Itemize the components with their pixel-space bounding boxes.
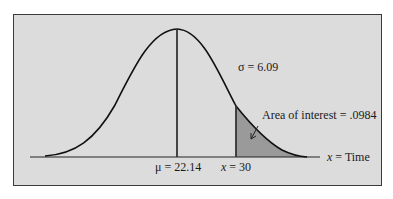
axis-label: x = Time [326, 150, 370, 164]
area-label: Area of interest = .0984 [262, 108, 376, 122]
sigma-label: σ = 6.09 [238, 60, 278, 74]
x-value-label: x = 30 [220, 160, 251, 174]
x-value-rest: = 30 [226, 160, 251, 174]
normal-curve [45, 29, 307, 157]
normal-curve-diagram: σ = 6.09 Area of interest = .0984 μ = 22… [0, 0, 393, 199]
mean-label: μ = 22.14 [155, 160, 201, 174]
axis-rest: = Time [332, 150, 369, 164]
